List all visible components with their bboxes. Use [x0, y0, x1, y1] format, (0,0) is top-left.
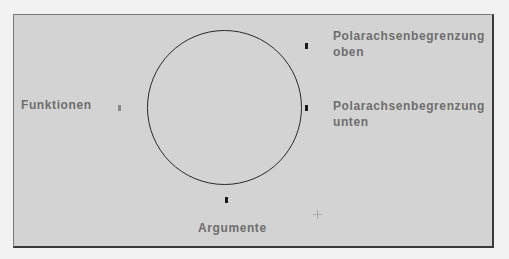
arguments-label: Argumente — [198, 220, 267, 236]
polar-lower-limit-label-line1: Polarachsenbegrenzung — [333, 98, 485, 114]
polar-upper-limit-handle[interactable] — [305, 43, 308, 49]
arguments-handle[interactable] — [225, 197, 228, 203]
functions-label: Funktionen — [21, 97, 92, 113]
crosshair-cursor-icon — [313, 210, 322, 219]
polar-circle[interactable] — [147, 30, 302, 185]
polar-upper-limit-label-line1: Polarachsenbegrenzung — [333, 28, 485, 44]
polar-lower-limit-label: Polarachsenbegrenzung unten — [333, 98, 485, 130]
polar-upper-limit-label-line2: oben — [333, 44, 485, 60]
polar-upper-limit-label: Polarachsenbegrenzung oben — [333, 28, 485, 60]
polar-lower-limit-handle[interactable] — [305, 105, 308, 111]
functions-handle[interactable] — [118, 105, 121, 111]
polar-lower-limit-label-line2: unten — [333, 114, 485, 130]
